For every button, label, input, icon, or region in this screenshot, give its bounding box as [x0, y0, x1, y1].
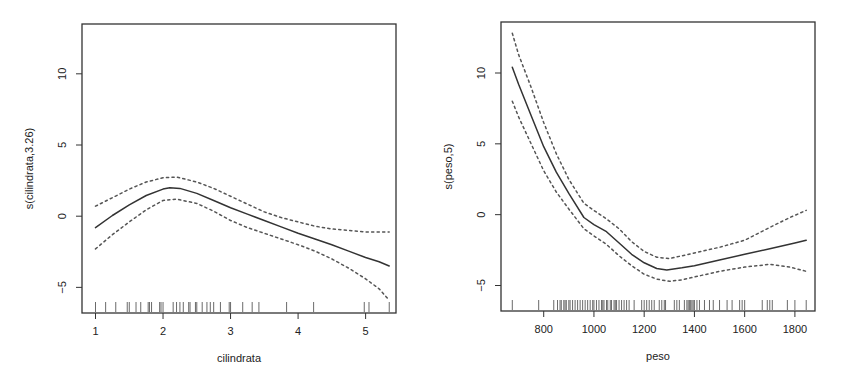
y-tick-label: 0	[475, 212, 487, 218]
plot-frame	[501, 22, 815, 311]
x-tick-label: 4	[295, 325, 301, 337]
x-tick-label: 1400	[682, 323, 706, 335]
x-tick-label: 5	[363, 325, 369, 337]
x-tick-label: 1	[92, 325, 98, 337]
y-tick-label: 0	[56, 213, 68, 219]
x-tick-label: 1600	[732, 323, 756, 335]
x-axis-title: peso	[646, 350, 670, 362]
x-tick-label: 2	[160, 325, 166, 337]
cilindrata-smooth-panel: 12345−50510cilindratas(cilindrata,3.26)	[23, 24, 396, 364]
x-tick-label: 800	[535, 323, 553, 335]
x-tick-label: 3	[227, 325, 233, 337]
x-tick-label: 1800	[783, 323, 807, 335]
y-tick-label: −5	[56, 281, 68, 294]
x-axis-title: cilindrata	[217, 352, 262, 364]
y-axis-title: s(cilindrata,3.26)	[23, 128, 35, 209]
plot-frame	[82, 24, 396, 313]
rug-plot	[512, 300, 806, 310]
confidence-band-line	[512, 101, 806, 281]
smooth-fit-line	[96, 188, 390, 266]
x-tick-label: 1000	[582, 323, 606, 335]
rug-plot	[96, 302, 390, 312]
peso-smooth-panel: 80010001200140016001800−50510pesos(peso,…	[442, 22, 815, 362]
y-axis-title: s(peso,5)	[442, 144, 454, 190]
x-tick-label: 1200	[632, 323, 656, 335]
y-tick-label: 10	[475, 67, 487, 79]
y-tick-label: 5	[56, 142, 68, 148]
smooth-fit-line	[512, 67, 806, 270]
gam-partial-effects-figure: 12345−50510cilindratas(cilindrata,3.26) …	[0, 0, 846, 391]
confidence-band-line	[96, 177, 390, 232]
y-tick-label: 10	[56, 68, 68, 80]
confidence-band-line	[512, 33, 806, 258]
y-tick-label: 5	[475, 141, 487, 147]
y-tick-label: −5	[475, 279, 487, 292]
